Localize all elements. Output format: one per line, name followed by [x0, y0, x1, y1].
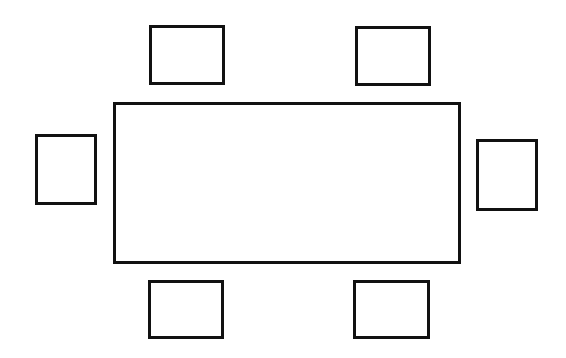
chair-bottom-right [353, 280, 430, 339]
chair-right [476, 139, 538, 211]
table [113, 102, 461, 264]
chair-top-right [355, 26, 431, 86]
chair-bottom-left [148, 280, 224, 339]
chair-left [35, 134, 97, 205]
seating-diagram-canvas [0, 0, 566, 358]
chair-top-left [149, 25, 225, 85]
